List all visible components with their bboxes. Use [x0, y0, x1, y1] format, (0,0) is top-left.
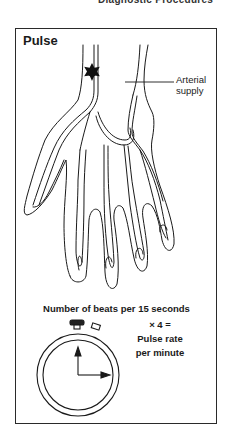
pulse-point-star-icon	[84, 63, 100, 81]
hand-arteries-illustration	[0, 0, 225, 444]
formula-pulse-rate: Pulse rate	[128, 332, 192, 346]
arterial-label-line2: supply	[176, 85, 206, 96]
arterial-label-line1: Arterial	[176, 74, 206, 85]
formula-per-minute: per minute	[128, 346, 192, 360]
stopwatch-icon	[37, 320, 119, 416]
formula-multiplier: × 4 =	[128, 318, 192, 332]
arterial-supply-label: Arterial supply	[176, 74, 206, 96]
formula-result: × 4 = Pulse rate per minute	[128, 318, 192, 360]
formula-beats-text: Number of beats per 15 seconds	[0, 303, 225, 314]
